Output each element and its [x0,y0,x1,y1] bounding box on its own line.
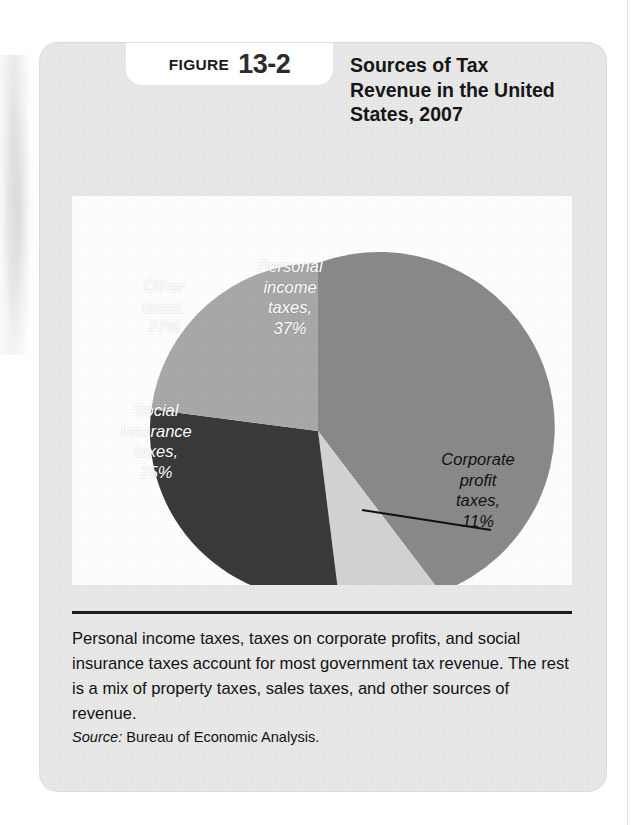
figure-caption: Personal income taxes, taxes on corporat… [72,626,578,726]
chart-panel: Personal income taxes, 37% Other taxes, … [72,196,572,585]
slice-label-personal-income: Personal income taxes, 37% [230,256,350,338]
caption-divider [72,611,572,614]
source-label: Source: [72,729,122,745]
figure-source: Source: Bureau of Economic Analysis. [72,728,578,747]
figure-card: FIGURE 13-2 Sources of Tax Revenue in th… [40,43,606,791]
slice-label-social-insurance: Social insurance taxes, 25% [94,400,218,482]
figure-number-label: 13-2 [238,49,290,80]
pie-chart: Personal income taxes, 37% Other taxes, … [72,196,572,585]
page-edge-line [627,0,628,825]
figure-number-tab: FIGURE 13-2 [126,43,333,85]
source-value: Bureau of Economic Analysis. [126,729,319,745]
figure-word-label: FIGURE [169,56,229,74]
figure-title: Sources of Tax Revenue in the United Sta… [350,53,562,127]
slice-label-other-taxes: Other taxes, 27% [115,276,213,338]
slice-label-corporate-profit: Corporate profit taxes, 11% [408,449,548,531]
